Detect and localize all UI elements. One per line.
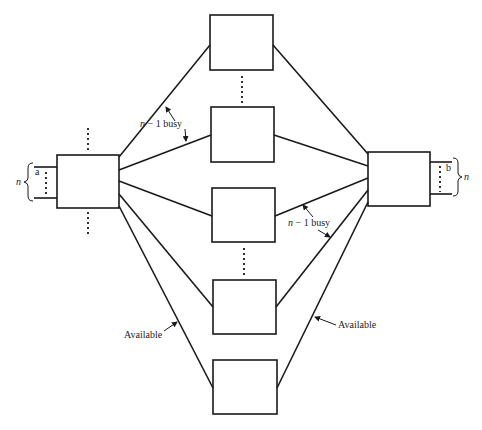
middle-switch-2 xyxy=(211,107,274,162)
left-brace xyxy=(24,163,33,201)
link-m5-right xyxy=(277,202,368,388)
busy-left-label: n − 1 busy xyxy=(140,118,182,129)
busy-right-arrow-up xyxy=(303,205,313,217)
right-count-label-n: n xyxy=(464,171,469,182)
switching-network-diagram: a n b n n − 1 busy n − 1 busy Available … xyxy=(0,0,482,430)
middle-switch-1 xyxy=(210,15,273,70)
link-m1-right xyxy=(273,45,368,154)
middle-switch-4 xyxy=(213,280,276,334)
middle-switch-5 xyxy=(213,360,277,414)
right-switch-box xyxy=(368,152,430,206)
left-count-label-n: n xyxy=(16,176,21,187)
available-right-arrow xyxy=(315,317,336,325)
available-right-label: Available xyxy=(338,319,377,330)
middle-switch-3 xyxy=(212,188,275,242)
link-left-m5 xyxy=(119,206,213,388)
available-left-arrow xyxy=(164,322,177,331)
link-m3-right xyxy=(275,178,368,216)
input-label-a: a xyxy=(35,166,40,177)
link-m4-right xyxy=(276,190,368,307)
left-switch-box xyxy=(57,155,119,208)
right-brace xyxy=(453,158,462,196)
available-left-label: Available xyxy=(124,329,163,340)
link-m2-right xyxy=(274,135,368,166)
busy-right-arrow-down xyxy=(318,230,330,237)
output-label-b: b xyxy=(446,162,451,173)
busy-left-arrow-down xyxy=(185,129,186,141)
busy-right-label: n − 1 busy xyxy=(288,217,330,228)
